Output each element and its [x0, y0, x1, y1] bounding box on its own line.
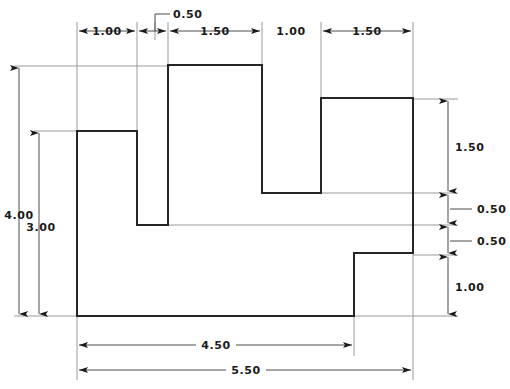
dim-label-1-00-a: 1.00	[92, 25, 122, 38]
dim-label-1-00-b: 1.00	[276, 25, 306, 38]
dim-label-0-50-top: 0.50	[173, 8, 203, 21]
left-dimension-group: 4.00 3.00	[4, 68, 56, 314]
dim-label-0-50-a: 0.50	[477, 203, 507, 216]
extension-lines-vertical	[77, 22, 413, 380]
engineering-drawing: 1.00 0.50 1.50 1.00 1.50 4.00 3.00 1.50 …	[0, 0, 510, 389]
part-profile-outline	[77, 65, 413, 316]
dim-label-4-50: 4.50	[201, 339, 231, 352]
dim-label-0-50-b: 0.50	[477, 235, 507, 248]
right-dimension-chain: 1.50 0.50 0.50 1.00	[448, 101, 507, 314]
technical-drawing-canvas: 1.00 0.50 1.50 1.00 1.50 4.00 3.00 1.50 …	[0, 0, 510, 389]
dim-label-1-00-vertical: 1.00	[455, 281, 485, 294]
dim-label-5-50: 5.50	[231, 364, 261, 377]
bottom-dimension-group: 4.50 5.50	[79, 338, 411, 377]
top-dimension-labels: 1.00 0.50 1.50 1.00 1.50	[92, 8, 382, 38]
dim-label-3-00: 3.00	[26, 221, 56, 234]
dim-label-1-50-b: 1.50	[352, 25, 382, 38]
dim-label-1-50-vertical: 1.50	[455, 141, 485, 154]
extension-lines-horizontal	[14, 66, 458, 316]
dim-label-1-50-a: 1.50	[200, 25, 230, 38]
